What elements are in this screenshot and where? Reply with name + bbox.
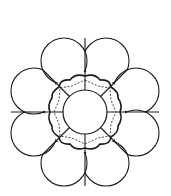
inner-circle [63, 90, 107, 134]
flower-diagram [0, 0, 171, 196]
flower-drawing [0, 0, 171, 196]
